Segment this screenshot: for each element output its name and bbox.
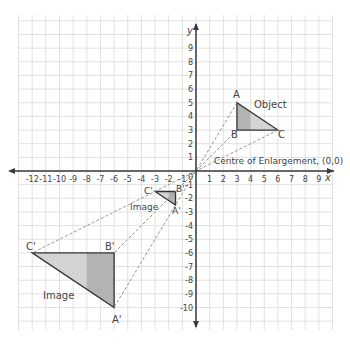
label-object: Object	[254, 99, 287, 110]
y-tick-label: 2	[188, 140, 193, 149]
x-tick-label: -5	[124, 175, 132, 184]
x-axis-label: x	[324, 172, 331, 183]
label-B-prime-large: B'	[105, 241, 115, 252]
y-tick-label: -6	[185, 249, 193, 258]
y-tick-label: -9	[185, 290, 193, 299]
y-tick-label: -3	[185, 208, 193, 217]
y-axis-arrow-up-icon	[193, 23, 199, 30]
label-A: A	[233, 89, 240, 100]
x-tick-label: -10	[53, 175, 66, 184]
coordinate-plane: -12-11-10-9-8-7-6-5-4-3-2-11234567899876…	[0, 0, 350, 359]
label-image-large: Image	[43, 290, 74, 301]
label-B-prime-small: B'	[176, 184, 185, 194]
x-tick-label: 4	[248, 175, 253, 184]
y-axis-arrow-down-icon	[193, 321, 199, 328]
x-tick-label: 6	[275, 175, 280, 184]
x-tick-label: -3	[151, 175, 159, 184]
y-tick-label: -7	[185, 263, 193, 272]
enlargement-diagram: -12-11-10-9-8-7-6-5-4-3-2-11234567899876…	[0, 0, 350, 359]
label-B: B	[231, 129, 238, 140]
label-C-prime-large: C'	[26, 241, 36, 252]
x-tick-label: 1	[207, 175, 212, 184]
y-tick-label: 7	[188, 71, 193, 80]
x-tick-label: 9	[316, 175, 321, 184]
y-tick-label: -1	[185, 181, 193, 190]
x-tick-label: 2	[221, 175, 226, 184]
label-C-prime-small: C'	[144, 186, 153, 196]
x-tick-label: -12	[26, 175, 39, 184]
x-tick-label: 5	[262, 175, 267, 184]
y-tick-label: 9	[188, 44, 193, 53]
y-tick-label: 6	[188, 85, 193, 94]
label-image-small: Image	[130, 202, 159, 212]
y-tick-label: 3	[188, 126, 193, 135]
label-A-prime-large: A'	[112, 314, 122, 325]
x-tick-label: -8	[83, 175, 91, 184]
x-tick-label: -11	[39, 175, 52, 184]
label-A-prime-small: A'	[172, 206, 181, 216]
y-tick-label: -5	[185, 235, 193, 244]
x-tick-label: -7	[96, 175, 104, 184]
x-tick-label: 8	[303, 175, 308, 184]
label-C: C	[278, 129, 285, 140]
y-tick-label: 4	[188, 112, 193, 121]
y-tick-label: -8	[185, 276, 193, 285]
label-centre: Centre of Enlargement, (0,0)	[214, 156, 343, 166]
origin-label: 0	[188, 173, 193, 182]
x-axis-arrow-left-icon	[8, 168, 15, 174]
y-tick-label: -2	[185, 194, 193, 203]
grid	[18, 15, 333, 330]
y-tick-label: 8	[188, 58, 193, 67]
x-tick-label: -9	[69, 175, 77, 184]
x-tick-label: -6	[110, 175, 118, 184]
y-tick-label: 5	[188, 99, 193, 108]
x-tick-label: 3	[234, 175, 239, 184]
x-tick-label: 7	[289, 175, 294, 184]
x-tick-label: -4	[137, 175, 145, 184]
y-axis-label: y	[186, 25, 194, 36]
y-tick-label: -4	[185, 222, 193, 231]
x-tick-label: -2	[165, 175, 173, 184]
y-tick-label: 1	[188, 153, 193, 162]
y-tick-label: -10	[180, 304, 193, 313]
